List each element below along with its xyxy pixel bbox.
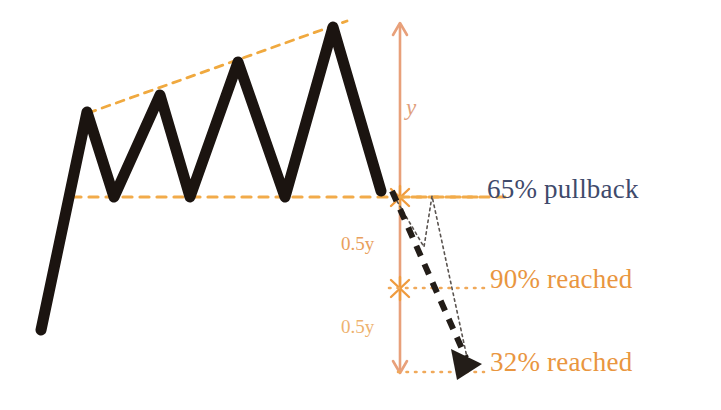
measure-label-half-y-upper: 0.5y — [341, 234, 374, 253]
projection-thin-path — [394, 196, 468, 362]
level-label-90-reached: 90% reached — [490, 266, 632, 293]
measure-label-y: y — [406, 96, 416, 119]
diagram-canvas: y 0.5y 0.5y 65% pullback 90% reached 32%… — [0, 0, 721, 410]
price-zigzag-line — [41, 27, 381, 330]
level-label-32-reached: 32% reached — [490, 349, 632, 376]
level-label-65-pullback: 65% pullback — [487, 176, 639, 203]
measure-label-half-y-lower: 0.5y — [341, 317, 374, 336]
